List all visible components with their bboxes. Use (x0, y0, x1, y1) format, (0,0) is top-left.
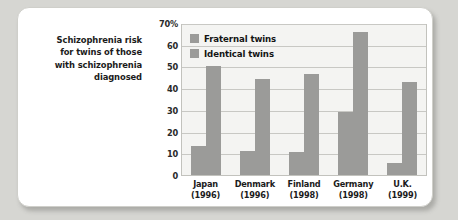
y-tick-label-20: 20 (167, 128, 178, 138)
x-tick-label-denmark: Denmark(1996) (230, 179, 279, 200)
bar-finland-fraternaltwins (289, 152, 304, 175)
figure-container: Schizophrenia risk for twins of those wi… (0, 0, 458, 220)
y-tick-label-10: 10 (167, 149, 178, 159)
x-tick-label-finland: Finland(1998) (279, 179, 328, 200)
legend-label-identical: Identical twins (204, 49, 274, 59)
chart-card: Schizophrenia risk for twins of those wi… (17, 7, 433, 207)
chart-caption: Schizophrenia risk for twins of those wi… (24, 34, 142, 84)
bar-japan-fraternaltwins (191, 146, 206, 175)
x-tick-year: (1996) (181, 190, 230, 201)
bar-denmark-fraternaltwins (240, 151, 255, 175)
bar-germany-fraternaltwins (338, 112, 353, 175)
caption-line-1: Schizophrenia risk (24, 34, 142, 46)
bar-uk-fraternaltwins (387, 163, 402, 175)
y-tick-label-60: 60 (167, 41, 178, 51)
plot-area: Fraternal twins Identical twins (181, 24, 427, 176)
y-axis-tick-labels: 010203040506070% (145, 24, 178, 176)
bar-uk-identicaltwins (402, 82, 417, 175)
bar-group-germany (328, 25, 377, 175)
x-tick-label-germany: Germany(1998) (329, 179, 378, 200)
bar-japan-identicaltwins (206, 66, 221, 175)
x-tick-year: (1999) (378, 190, 427, 201)
x-tick-country: Germany (333, 179, 373, 189)
caption-line-2: for twins of those (24, 46, 142, 58)
bar-group-finland (280, 25, 329, 175)
x-tick-country: U.K. (393, 179, 411, 189)
legend-item-identical-twins: Identical twins (190, 46, 276, 61)
y-tick-label-70: 70% (159, 19, 178, 29)
x-tick-label-uk: U.K.(1999) (378, 179, 427, 200)
bar-germany-identicaltwins (353, 32, 368, 175)
caption-line-3: with schizophrenia (24, 59, 142, 71)
bar-chart: 010203040506070% Fraternal twins Identic… (145, 24, 427, 202)
legend-swatch-icon-fraternal (190, 34, 199, 43)
bar-finland-identicaltwins (304, 74, 319, 175)
x-tick-country: Japan (193, 179, 218, 189)
legend: Fraternal twins Identical twins (190, 31, 276, 61)
x-tick-year: (1998) (329, 190, 378, 201)
x-axis-tick-labels: Japan(1996)Denmark(1996)Finland(1998)Ger… (181, 179, 427, 200)
x-tick-year: (1998) (279, 190, 328, 201)
x-tick-country: Finland (288, 179, 321, 189)
y-tick-label-30: 30 (167, 106, 178, 116)
legend-label-fraternal: Fraternal twins (204, 34, 276, 44)
x-tick-country: Denmark (235, 179, 275, 189)
caption-line-4: diagnosed (24, 71, 142, 83)
bar-group-uk (377, 25, 426, 175)
x-tick-year: (1996) (230, 190, 279, 201)
y-tick-label-40: 40 (167, 84, 178, 94)
x-tick-label-japan: Japan(1996) (181, 179, 230, 200)
y-tick-label-0: 0 (173, 171, 179, 181)
bar-denmark-identicaltwins (255, 79, 270, 175)
legend-swatch-icon-identical (190, 49, 199, 58)
legend-item-fraternal-twins: Fraternal twins (190, 31, 276, 46)
y-tick-label-50: 50 (167, 62, 178, 72)
